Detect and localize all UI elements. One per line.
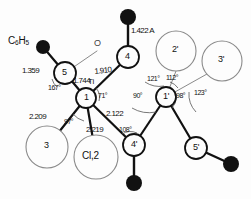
atom-label-1: 1 — [84, 93, 89, 102]
atom-label-3: 3 — [44, 141, 49, 150]
atom-label-1prime: 1' — [163, 92, 169, 101]
angle-label-108: 108° — [119, 126, 131, 133]
arc-121 — [145, 82, 164, 86]
angle-label-112: 112° — [166, 74, 178, 81]
atom-label-5prime: 5' — [193, 143, 199, 152]
bond-length-label-2209: 2.209 — [29, 113, 46, 121]
angle-label-90: 90° — [133, 92, 142, 99]
atom-label-4: 4 — [125, 52, 130, 61]
bond-group-thick — [43, 17, 231, 183]
angle-label-121: 121° — [147, 75, 159, 82]
bond-length-label-1422: 1.422 A — [131, 27, 154, 35]
bond-length-label-2122: 2.122 — [106, 110, 123, 118]
angle-label-71: 71° — [98, 92, 107, 99]
atom-label-3prime: 3' — [218, 55, 224, 64]
bond-length-label-1359: 1.359 — [22, 67, 39, 75]
angle-label-167: 167° — [48, 84, 60, 91]
angle-label-123: 123° — [194, 89, 206, 96]
atom-dot-phenyl — [36, 40, 50, 54]
atom-label-oxygen: O — [94, 39, 101, 48]
bond-length-label-2219: 2.219 — [86, 126, 103, 134]
angle-label-98: 98° — [176, 92, 185, 99]
atom-label-5: 5 — [62, 68, 67, 77]
arc-97 — [73, 114, 84, 121]
bond-length-label-1744: 1.744 — [73, 77, 90, 85]
atom-label-4prime: 4' — [131, 140, 137, 149]
structure-svg — [0, 0, 251, 199]
filled-atom-group — [36, 9, 239, 191]
atom-label-cl2: Cl,2 — [82, 151, 99, 161]
angle-label-97: 97° — [64, 118, 73, 125]
arc-90 — [132, 108, 156, 113]
atom-dot-4 — [120, 9, 136, 25]
molecular-structure-figure: C6H5 O 5 4 1 Ti 1' 2' 3' 3 Cl,2 4' 5' 1.… — [0, 0, 251, 199]
atom-label-2prime: 2' — [172, 45, 178, 54]
atom-dot-5prime — [223, 156, 239, 172]
atom-dot-4prime — [126, 175, 142, 191]
atom-label-c6h5: C6H5 — [8, 36, 29, 47]
